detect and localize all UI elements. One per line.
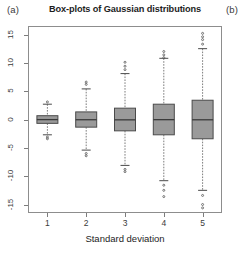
outlier-point <box>124 61 126 63</box>
outlier-point <box>163 57 165 59</box>
y-axis-tick-label: -15 <box>6 193 15 215</box>
x-axis-tick-mark <box>203 213 204 217</box>
outlier-point <box>85 155 87 157</box>
boxplot-group <box>115 61 136 172</box>
outlier-point <box>46 101 48 103</box>
figure-root: (a) (b) Box-plots of Gaussian distributi… <box>0 0 249 253</box>
boxplot-canvas <box>28 26 222 213</box>
outlier-point <box>85 153 87 155</box>
x-axis-tick-mark <box>164 213 165 217</box>
y-axis-tick-mark <box>24 205 28 206</box>
outlier-point <box>85 83 87 85</box>
panel-label-b: (b) <box>226 4 238 15</box>
outlier-point <box>202 39 204 41</box>
boxplot-group <box>192 32 213 209</box>
outlier-point <box>202 36 204 38</box>
boxplot-group <box>37 101 58 140</box>
y-axis-tick-mark <box>24 63 28 64</box>
x-axis-tick-mark <box>125 213 126 217</box>
y-axis-tick-label: 0 <box>6 108 15 130</box>
outlier-point <box>202 204 204 206</box>
y-axis-tick-mark <box>24 120 28 121</box>
outlier-point <box>163 54 165 56</box>
y-axis-tick-label: 15 <box>6 23 15 45</box>
outlier-point <box>85 81 87 83</box>
panel-label-a: (a) <box>7 4 19 15</box>
outlier-point <box>202 194 204 196</box>
outlier-point <box>163 51 165 53</box>
outlier-point <box>163 196 165 198</box>
y-axis-tick-mark <box>24 148 28 149</box>
x-axis-tick-label: 1 <box>38 218 56 228</box>
outlier-point <box>163 184 165 186</box>
outlier-point <box>124 171 126 173</box>
x-axis-tick-label: 4 <box>155 218 173 228</box>
outlier-point <box>124 168 126 170</box>
outlier-point <box>202 207 204 209</box>
x-axis-tick-label: 5 <box>194 218 212 228</box>
outlier-point <box>124 69 126 71</box>
outlier-point <box>124 65 126 67</box>
x-axis-tick-mark <box>86 213 87 217</box>
y-axis-tick-label: -5 <box>6 136 15 158</box>
outlier-point <box>46 138 48 140</box>
outlier-point <box>202 43 204 45</box>
boxplot-group <box>76 81 97 157</box>
y-axis-tick-label: 5 <box>6 80 15 102</box>
x-axis-tick-mark <box>47 213 48 217</box>
y-axis-tick-label: -10 <box>6 165 15 187</box>
y-axis-tick-mark <box>24 91 28 92</box>
outlier-point <box>163 189 165 191</box>
y-axis-tick-mark <box>24 35 28 36</box>
y-axis-tick-label: 10 <box>6 51 15 73</box>
x-axis-tick-label: 2 <box>77 218 95 228</box>
x-axis-tick-label: 3 <box>116 218 134 228</box>
y-axis-tick-mark <box>24 176 28 177</box>
chart-title: Box-plots of Gaussian distributions <box>28 4 222 14</box>
x-axis-title: Standard deviation <box>28 233 222 244</box>
boxplot-group <box>153 51 174 198</box>
outlier-point <box>202 32 204 34</box>
